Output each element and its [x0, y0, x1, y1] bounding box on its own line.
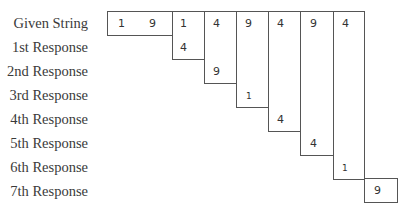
- row-label-2nd-response: 2nd Response: [0, 59, 88, 83]
- row-label-3rd-response: 3rd Response: [0, 83, 88, 107]
- response-digit: 4: [310, 138, 317, 150]
- response-digit: 9: [213, 66, 220, 78]
- given-digit: 9: [245, 18, 252, 30]
- given-digit: 9: [149, 18, 156, 30]
- row-label-given-string: Given String: [0, 11, 88, 35]
- column-5-box: [300, 11, 334, 156]
- column-3-box: [236, 11, 269, 108]
- response-digit: 4: [277, 114, 284, 126]
- column-7-box: [364, 178, 398, 203]
- response-digit: 9: [374, 185, 381, 197]
- given-digit: 4: [213, 18, 220, 30]
- given-digit: 4: [342, 18, 349, 30]
- row-label-7th-response: 7th Response: [0, 179, 88, 203]
- column-1-box: [172, 11, 205, 60]
- row-label-4th-response: 4th Response: [0, 107, 88, 131]
- column-4-box: [268, 11, 301, 132]
- given-digit: 1: [180, 18, 187, 30]
- given-digit: 4: [277, 18, 284, 30]
- column-6-box: [333, 11, 365, 180]
- column-2-box: [204, 11, 237, 84]
- row-label-1st-response: 1st Response: [0, 35, 88, 59]
- given-digit: 9: [310, 18, 317, 30]
- response-digit: 1: [246, 90, 252, 102]
- response-digit: 4: [180, 42, 187, 54]
- given-digit: 1: [118, 18, 125, 30]
- given-string-first-box: [107, 11, 173, 36]
- row-label-5th-response: 5th Response: [0, 131, 88, 155]
- row-label-6th-response: 6th Response: [0, 155, 88, 179]
- response-digit: 1: [342, 162, 348, 174]
